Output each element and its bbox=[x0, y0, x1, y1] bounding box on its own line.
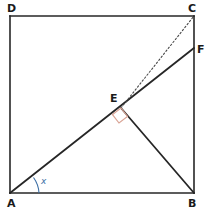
vertex-label-F: F bbox=[197, 43, 205, 56]
vertex-label-A: A bbox=[7, 197, 16, 210]
vertex-label-E: E bbox=[110, 92, 118, 105]
vertex-label-B: B bbox=[188, 197, 196, 210]
line-EC-dotted bbox=[121, 16, 194, 108]
vertex-label-D: D bbox=[7, 2, 16, 15]
line-EB bbox=[121, 108, 194, 193]
geometry-canvas: A B C D E F x bbox=[0, 0, 209, 215]
geometry-diagram: A B C D E F x bbox=[0, 0, 209, 215]
angle-label-x: x bbox=[40, 176, 47, 186]
line-AF bbox=[10, 48, 194, 193]
vertex-label-C: C bbox=[188, 2, 196, 15]
angle-arc-icon bbox=[34, 178, 40, 194]
